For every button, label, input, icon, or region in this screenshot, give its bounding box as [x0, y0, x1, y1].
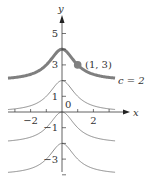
axes [8, 15, 130, 175]
x-tick-label: 2 [90, 115, 96, 126]
y-axis-label: y [57, 3, 64, 14]
y-tick-label: 1 [52, 91, 58, 102]
x-axis-label: x [133, 107, 139, 118]
curve-thin [8, 81, 115, 110]
origin-label: 0 [65, 99, 71, 110]
curve-label: c = 2 [118, 75, 145, 86]
chart-canvas: −22531−1−3 x y 0 (1, 3) c = 2 [0, 0, 151, 177]
y-axis-arrow-icon [60, 15, 65, 23]
y-tick-label: −3 [43, 154, 58, 165]
x-axis-arrow-icon [123, 110, 130, 115]
y-tick-label: 5 [52, 28, 58, 39]
point-label: (1, 3) [85, 59, 112, 70]
y-tick-label: 3 [52, 59, 58, 70]
y-tick-label: −1 [43, 122, 58, 133]
x-tick-label: −2 [23, 115, 38, 126]
highlight-point [74, 61, 82, 69]
curve-thin [8, 143, 115, 172]
